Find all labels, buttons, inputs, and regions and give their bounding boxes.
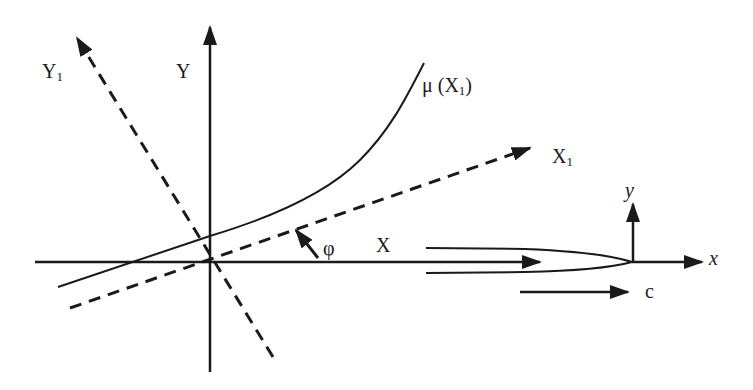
x-axis-label: X — [376, 234, 391, 256]
y1-axis-dashed-line — [77, 38, 273, 357]
coordinate-diagram: Y Y1 X X1 μ (X1) φ y x c — [0, 0, 753, 390]
crack-speed-label: c — [645, 280, 654, 302]
x1-axis-label: X1 — [552, 145, 573, 169]
crack-lower-face — [426, 262, 632, 273]
phi-angle-label: φ — [323, 237, 335, 260]
mu-curve-label: μ (X1) — [422, 74, 472, 98]
crack-upper-face — [426, 248, 632, 262]
local-x-label: x — [708, 247, 718, 269]
y-axis-label: Y — [176, 60, 190, 82]
y1-axis-label: Y1 — [42, 60, 63, 84]
x1-axis-dashed-line — [70, 148, 530, 308]
phi-angle-arrow — [296, 230, 318, 258]
local-y-label: y — [623, 179, 634, 202]
